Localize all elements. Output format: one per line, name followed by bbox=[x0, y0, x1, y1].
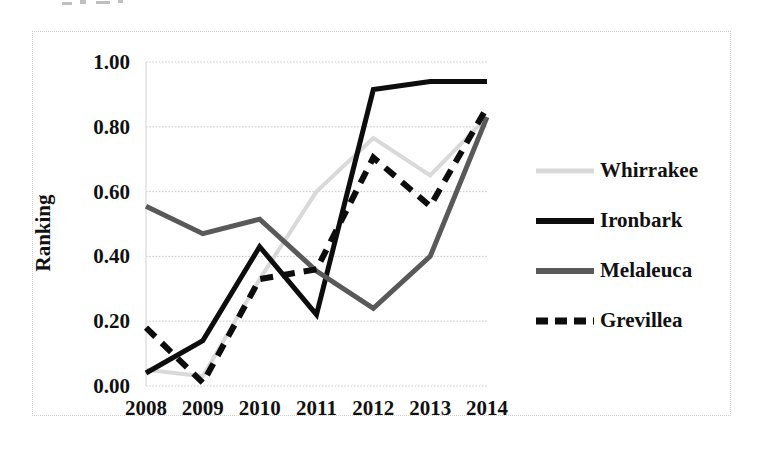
series-line-ironbark bbox=[146, 81, 487, 373]
x-tick-labels-group: 2008200920102011201220132014 bbox=[125, 396, 509, 420]
legend: WhirrakeeIronbarkMelaleucaGrevillea bbox=[536, 158, 698, 332]
x-tick-label: 2012 bbox=[352, 396, 394, 420]
y-tick-label: 0.60 bbox=[93, 180, 130, 204]
legend-label-whirrakee: Whirrakee bbox=[600, 158, 698, 182]
line-chart: 0.000.200.400.600.801.00 200820092010201… bbox=[0, 0, 762, 464]
y-axis-title: Ranking bbox=[31, 194, 55, 272]
x-tick-label: 2013 bbox=[409, 396, 451, 420]
y-tick-label: 0.00 bbox=[93, 374, 130, 398]
figure-canvas: 0.000.200.400.600.801.00 200820092010201… bbox=[0, 0, 762, 464]
x-tick-label: 2014 bbox=[466, 396, 509, 420]
series-line-melaleuca bbox=[146, 117, 487, 308]
legend-label-ironbark: Ironbark bbox=[600, 208, 683, 232]
y-axis-title-group: Ranking bbox=[31, 194, 55, 272]
y-tick-label: 0.20 bbox=[93, 309, 130, 333]
y-tick-label: 1.00 bbox=[93, 50, 130, 74]
x-tick-label: 2010 bbox=[239, 396, 281, 420]
legend-label-grevillea: Grevillea bbox=[600, 308, 683, 332]
y-tick-label: 0.80 bbox=[93, 115, 130, 139]
x-tick-label: 2011 bbox=[296, 396, 337, 420]
gridlines-group bbox=[146, 62, 487, 386]
y-tick-label: 0.40 bbox=[93, 244, 130, 268]
x-tick-label: 2008 bbox=[125, 396, 167, 420]
y-tick-labels-group: 0.000.200.400.600.801.00 bbox=[93, 50, 130, 398]
legend-label-melaleuca: Melaleuca bbox=[600, 258, 693, 282]
x-tick-label: 2009 bbox=[182, 396, 224, 420]
